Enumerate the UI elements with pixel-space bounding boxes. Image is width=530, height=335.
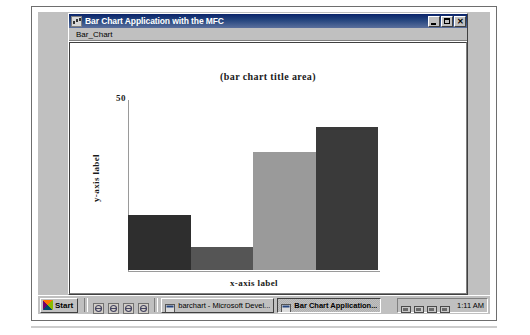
x-axis-label: x-axis label	[128, 278, 380, 288]
window-title-bar[interactable]: Bar Chart Application with the MFC ✕	[69, 14, 467, 28]
close-button[interactable]: ✕	[454, 16, 466, 27]
app-window-icon	[71, 16, 82, 27]
y-axis-label: y-axis label	[91, 138, 101, 218]
application-window: Bar Chart Application with the MFC ✕ Bar…	[68, 13, 468, 295]
task-button[interactable]: Bar Chart Application...	[277, 298, 381, 313]
media-player-icon[interactable]	[138, 300, 149, 311]
window-title: Bar Chart Application with the MFC	[85, 15, 427, 27]
menu-item-bar-chart[interactable]: Bar_Chart	[73, 29, 115, 40]
plot-area	[128, 100, 378, 270]
internet-explorer-icon[interactable]	[93, 300, 104, 311]
y-axis-tick-label-50: 50	[108, 93, 126, 103]
task-button-list: barchart - Microsoft Devel...Bar Chart A…	[161, 298, 397, 313]
task-button-label: barchart - Microsoft Devel...	[178, 300, 270, 311]
bar-2	[191, 247, 254, 270]
bar-3	[253, 152, 316, 270]
clock-tray-icon[interactable]	[427, 300, 437, 310]
chart-client-area: (bar chart title area) 50 y-axis label x…	[69, 42, 467, 294]
bar-4	[316, 127, 379, 270]
minimize-button[interactable]	[428, 16, 440, 27]
task-button[interactable]: barchart - Microsoft Devel...	[161, 298, 274, 313]
network-status-icon[interactable]	[401, 300, 411, 310]
system-tray: 1:11 AM	[397, 298, 488, 313]
screenshot-root: Bar Chart Application with the MFC ✕ Bar…	[0, 0, 530, 335]
taskbar: Start barchart - Microsoft Devel...Bar C…	[38, 295, 490, 314]
menu-bar: Bar_Chart	[69, 28, 467, 41]
bar-1	[128, 215, 191, 270]
network-icon[interactable]	[108, 300, 119, 311]
close-icon: ✕	[457, 17, 464, 26]
scan-edge-line	[31, 326, 497, 328]
app-window-icon	[281, 300, 291, 310]
windows-logo-icon	[43, 300, 53, 310]
maximize-button[interactable]	[441, 16, 453, 27]
chart-title: (bar chart title area)	[70, 71, 466, 82]
start-button[interactable]: Start	[40, 298, 78, 313]
windows-desktop: Bar Chart Application with the MFC ✕ Bar…	[38, 12, 490, 314]
taskbar-divider-2	[154, 298, 158, 312]
taskbar-clock[interactable]: 1:11 AM	[457, 300, 484, 311]
visual-studio-icon	[165, 300, 175, 310]
start-button-label: Start	[55, 300, 73, 311]
x-axis-line	[128, 271, 380, 272]
volume-icon[interactable]	[414, 300, 424, 310]
show-desktop-icon[interactable]	[123, 300, 134, 311]
printer-icon[interactable]	[440, 300, 450, 310]
quick-launch-bar	[91, 300, 151, 311]
task-button-label: Bar Chart Application...	[294, 300, 377, 311]
taskbar-divider	[84, 298, 88, 312]
